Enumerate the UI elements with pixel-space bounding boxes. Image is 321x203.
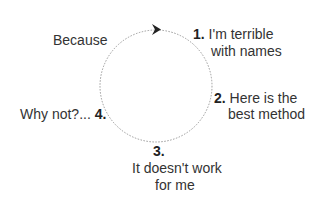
step-4: Why not?... 4. [20,106,106,122]
step-3-number: 3. [153,143,165,159]
step-3-line1: It doesn't work [132,160,222,176]
step-2-line2: best method [228,106,305,122]
loop-label: Because [53,32,107,48]
step-1-line2: with names [211,43,282,59]
step-1: 1. I'm terrible [193,26,274,42]
step-4-prefix: Why not?... [20,106,91,122]
arrow-chevron-icon [152,24,161,35]
step-4-number: 4. [95,106,107,122]
cycle-circle [100,30,212,142]
step-2-line1: Here is the [230,90,298,106]
step-1-number: 1. [193,26,205,42]
step-1-line1: I'm terrible [209,26,274,42]
step-2: 2. Here is the [214,90,297,106]
step-2-number: 2. [214,90,226,106]
step-3-line2: for me [155,177,195,193]
